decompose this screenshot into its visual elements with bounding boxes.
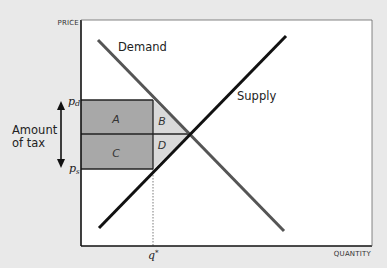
- area-a-label: A: [111, 113, 120, 126]
- pd-label: pd: [68, 95, 80, 108]
- x-axis-label: QUANTITY: [334, 250, 372, 258]
- area-d-label: D: [158, 139, 166, 152]
- tax-incidence-diagram: PRICE QUANTITY Demand Supply A B C D pd …: [0, 0, 387, 268]
- area-c-label: C: [112, 147, 120, 160]
- area-b-label: B: [158, 115, 166, 128]
- double-arrow-icon: [57, 101, 65, 168]
- tax-label-line2: of tax: [12, 136, 45, 150]
- demand-label: Demand: [118, 40, 167, 54]
- qstar-label: q*: [148, 249, 159, 262]
- supply-label: Supply: [237, 89, 276, 103]
- y-axis-label: PRICE: [58, 19, 79, 27]
- tax-label-line1: Amount: [12, 123, 58, 137]
- ps-label: ps: [69, 162, 80, 176]
